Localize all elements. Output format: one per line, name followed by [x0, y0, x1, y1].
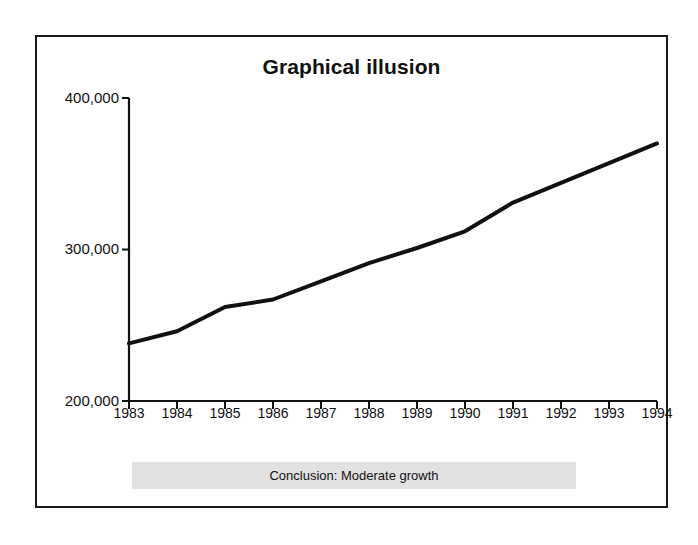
x-tick-label-1994: 1994	[634, 405, 680, 421]
x-tick-label-1985: 1985	[202, 405, 248, 421]
x-tick-label-1993: 1993	[586, 405, 632, 421]
x-tick-label-1984: 1984	[154, 405, 200, 421]
chart-plot-svg	[37, 37, 670, 510]
y-tick-label-300000: 300,000	[35, 240, 119, 257]
data-series-line	[129, 143, 657, 343]
figure-frame: Graphical illusion	[35, 35, 668, 508]
x-axis-label-row: 1983 1984 1985 1986 1987 1988 1989 1990 …	[37, 405, 670, 427]
x-tick-label-1990: 1990	[442, 405, 488, 421]
x-tick-label-1987: 1987	[298, 405, 344, 421]
x-tick-label-1989: 1989	[394, 405, 440, 421]
x-tick-label-1988: 1988	[346, 405, 392, 421]
conclusion-label: Conclusion: Moderate growth	[269, 468, 438, 483]
figure-root: Graphical illusion	[0, 0, 698, 545]
x-tick-label-1992: 1992	[538, 405, 584, 421]
plot-area: 400,000 300,000 200,000 1983 1984 1985 1…	[37, 37, 670, 510]
x-tick-label-1986: 1986	[250, 405, 296, 421]
x-tick-label-1991: 1991	[490, 405, 536, 421]
y-tick-label-400000: 400,000	[35, 89, 119, 106]
conclusion-banner: Conclusion: Moderate growth	[132, 462, 576, 489]
x-tick-label-1983: 1983	[106, 405, 152, 421]
